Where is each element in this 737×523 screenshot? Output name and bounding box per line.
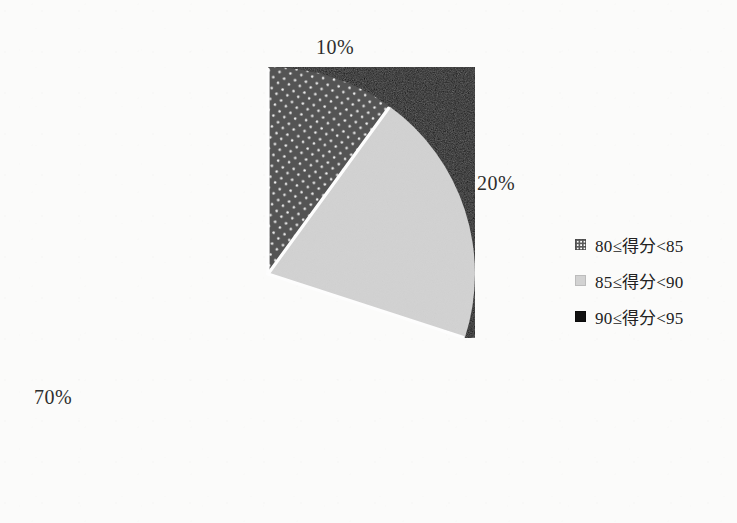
legend-item-80-85[interactable]: 80≤得分<85 (575, 226, 735, 262)
legend-label-85-90: 85≤得分<90 (595, 268, 684, 293)
pie-svg (61, 67, 475, 481)
legend-swatch-dotted-icon (575, 239, 586, 250)
slice-label-70-percent: 70% (34, 386, 72, 409)
legend-label-80-85: 80≤得分<85 (595, 232, 684, 257)
legend-label-90-95: 90≤得分<95 (595, 304, 684, 329)
pie-chart-page: 10% 20% 70% 80≤得分<85 85≤得分<90 90≤得分<95 (0, 0, 737, 523)
legend-item-90-95[interactable]: 90≤得分<95 (575, 298, 735, 334)
legend-swatch-light-gray-icon (575, 275, 586, 286)
slice-label-20-percent: 20% (477, 172, 515, 195)
legend-swatch-black-icon (575, 311, 586, 322)
legend-item-85-90[interactable]: 85≤得分<90 (575, 262, 735, 298)
chart-legend: 80≤得分<85 85≤得分<90 90≤得分<95 (575, 226, 735, 334)
slice-label-10-percent: 10% (316, 36, 354, 59)
pie-chart-graphic (61, 67, 475, 481)
